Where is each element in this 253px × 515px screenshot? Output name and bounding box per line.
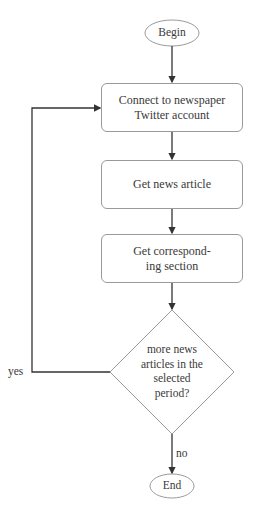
decision-line-1: more news [122, 342, 222, 357]
decision-line-4: period? [122, 386, 222, 401]
decision-line-3: selected [122, 371, 222, 386]
no-label: no [176, 446, 196, 461]
step-connect-line-1: Connect to newspaper [119, 93, 226, 108]
arrow-loop-yes [32, 108, 110, 372]
decision-line-2: articles in the [122, 357, 222, 372]
step-get-section-line-2: ing section [133, 259, 211, 274]
step-get-article-line-1: Get news article [133, 177, 211, 192]
yes-label: yes [8, 364, 30, 379]
end-node: End [150, 478, 194, 493]
step-connect-line-2: Twitter account [119, 108, 226, 123]
step-get-section: Get correspond- ing section [101, 234, 243, 283]
step-get-section-line-1: Get correspond- [133, 244, 211, 259]
step-connect-twitter: Connect to newspaper Twitter account [101, 83, 243, 132]
decision-node: more news articles in the selected perio… [122, 342, 222, 400]
step-get-news-article: Get news article [101, 160, 243, 209]
begin-node: Begin [145, 25, 199, 40]
